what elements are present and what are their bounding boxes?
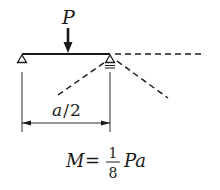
formula-equals: = <box>85 150 100 171</box>
dimension-label-slash: / <box>63 100 69 120</box>
fraction-numerator: 1 <box>109 145 118 161</box>
arrow-left-icon <box>22 121 31 126</box>
dimension-line <box>22 121 110 126</box>
dimension-label-2: 2 <box>70 100 81 120</box>
moment-formula: M = 1 8 Pa <box>65 145 146 181</box>
dimension-label: a/2 <box>52 100 81 120</box>
load-arrow-icon <box>64 28 73 53</box>
diagram-svg: P <box>0 0 220 190</box>
fraction-denominator: 8 <box>109 165 118 181</box>
arrow-right-icon <box>101 121 110 126</box>
right-support-icon <box>105 55 115 68</box>
load-label: P <box>61 6 76 28</box>
beam-diagram: P <box>0 0 220 190</box>
dimension-label-a: a <box>52 100 62 120</box>
dashed-diagonal-left <box>58 62 105 95</box>
dashed-diagonal-right <box>117 61 168 98</box>
formula-rhs: Pa <box>123 150 146 171</box>
left-support-icon <box>18 55 27 63</box>
formula-lhs: M <box>65 150 85 171</box>
